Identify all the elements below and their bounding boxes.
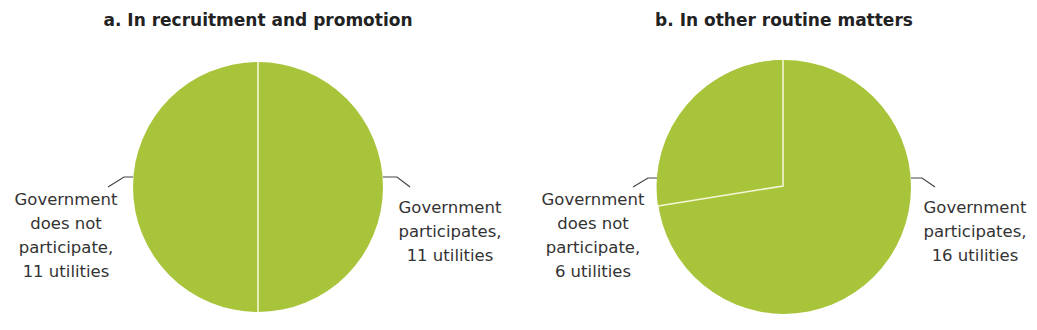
pie-b-slice-does-not-participate	[657, 60, 783, 206]
pie-a-leader-right	[383, 177, 410, 187]
label-line: Government	[532, 188, 654, 212]
pie-a-label-left: Government does not participate, 11 util…	[6, 188, 126, 284]
label-line: does not	[6, 212, 126, 236]
pie-b-label-right: Government participates, 16 utilities	[914, 196, 1036, 268]
pie-a	[108, 62, 410, 312]
pie-b-leader-left	[633, 178, 657, 187]
label-line: Government	[914, 196, 1036, 220]
label-line: does not	[532, 212, 654, 236]
pie-b-label-left: Government does not participate, 6 utili…	[532, 188, 654, 284]
pie-a-slice-participates	[258, 62, 383, 312]
label-line: 16 utilities	[914, 244, 1036, 268]
pie-b	[633, 60, 935, 314]
label-line: participates,	[389, 220, 511, 244]
pie-a-leader-left	[108, 177, 133, 187]
label-line: Government	[6, 188, 126, 212]
label-line: participate,	[532, 236, 654, 260]
pie-charts	[0, 0, 1037, 330]
label-line: 11 utilities	[389, 244, 511, 268]
label-line: 6 utilities	[532, 260, 654, 284]
label-line: Government	[389, 196, 511, 220]
pie-a-slice-does-not-participate	[133, 62, 258, 312]
pie-a-label-right: Government participates, 11 utilities	[389, 196, 511, 268]
label-line: participate,	[6, 236, 126, 260]
pie-b-leader-right	[911, 178, 935, 187]
label-line: 11 utilities	[6, 260, 126, 284]
label-line: participates,	[914, 220, 1036, 244]
